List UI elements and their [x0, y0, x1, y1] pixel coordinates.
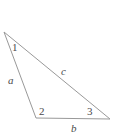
- angle-label-3: 3: [87, 106, 93, 117]
- triangle-polygon: [4, 32, 110, 119]
- angle-label-1: 1: [12, 42, 18, 53]
- side-label-a: a: [8, 75, 14, 86]
- side-label-c: c: [61, 66, 66, 77]
- triangle-figure-canvas: 1 2 3 a c b: [0, 0, 114, 139]
- side-label-b: b: [71, 123, 77, 134]
- triangle-outline-graphic: [0, 0, 114, 139]
- angle-label-2: 2: [39, 106, 45, 117]
